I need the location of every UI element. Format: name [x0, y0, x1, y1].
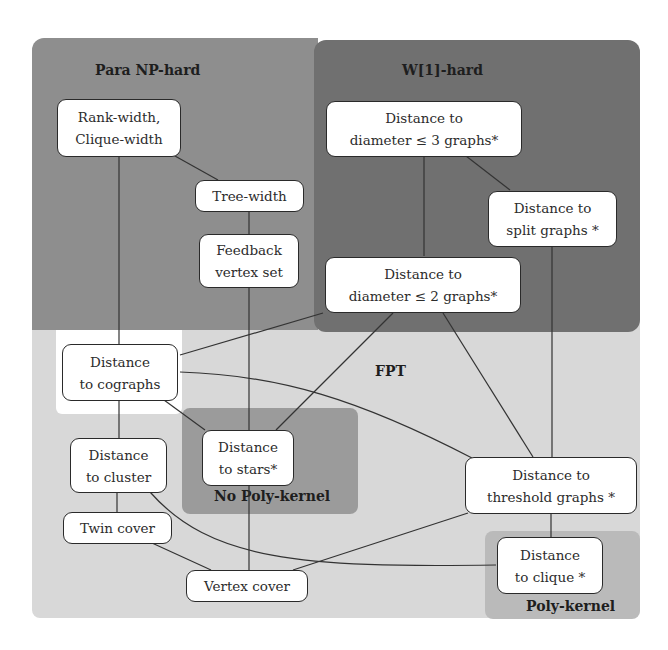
node-distance-to-diameter-3[interactable]: Distance to diameter ≤ 3 graphs* — [326, 101, 522, 157]
node-label-line1: Distance to — [514, 197, 592, 219]
node-label-line1: Rank-width, — [78, 106, 161, 128]
edge-cluster-clique — [150, 492, 496, 566]
node-label-line2: to stars* — [219, 458, 277, 480]
edge-threshold-vertexcover — [293, 513, 468, 570]
node-label-line2: vertex set — [215, 261, 283, 283]
node-label-line1: Distance to — [385, 107, 463, 129]
node-distance-to-diameter-2[interactable]: Distance to diameter ≤ 2 graphs* — [325, 257, 521, 313]
node-label-line2: Clique-width — [75, 128, 163, 150]
node-label-line1: Distance — [89, 444, 149, 466]
node-vertex-cover[interactable]: Vertex cover — [186, 570, 308, 602]
node-label-line2: diameter ≤ 3 graphs* — [350, 129, 499, 151]
node-label-line1: Twin cover — [80, 517, 155, 539]
node-feedback-vertex-set[interactable]: Feedback vertex set — [199, 234, 299, 288]
node-label-line2: to cluster — [86, 466, 151, 488]
node-label-line1: Tree-width — [212, 185, 287, 207]
edge-diam2-threshold — [443, 313, 533, 457]
node-label-line2: split graphs * — [506, 219, 598, 241]
node-distance-to-threshold[interactable]: Distance to threshold graphs * — [465, 457, 637, 514]
edge-diam2-cographs — [180, 313, 323, 355]
node-distance-to-stars[interactable]: Distance to stars* — [202, 430, 294, 486]
node-label-line1: Distance to — [384, 263, 462, 285]
node-label-line1: Vertex cover — [204, 575, 290, 597]
edge-diam2-stars — [276, 313, 393, 430]
edge-cographs-stars — [164, 400, 205, 430]
node-label-line1: Feedback — [216, 239, 282, 261]
node-tree-width[interactable]: Tree-width — [195, 180, 304, 212]
node-label-line1: Distance — [218, 436, 278, 458]
edge-diam3-split — [466, 156, 510, 190]
node-label-line1: Distance to — [512, 464, 590, 486]
node-twin-cover[interactable]: Twin cover — [63, 512, 172, 544]
node-label-line1: Distance — [90, 351, 150, 373]
node-label-line2: to cographs — [80, 373, 161, 395]
edge-rankwidth-treewidth — [175, 156, 218, 180]
node-label-line2: to clique * — [515, 566, 585, 588]
parameter-hierarchy-diagram: Para NP-hard W[1]-hard FPT No Poly-kerne… — [0, 0, 668, 650]
node-distance-to-clique[interactable]: Distance to clique * — [497, 537, 603, 594]
node-distance-to-cographs[interactable]: Distance to cographs — [62, 344, 178, 401]
node-label-line1: Distance — [520, 544, 580, 566]
node-label-line2: threshold graphs * — [487, 486, 615, 508]
node-rank-width-clique-width[interactable]: Rank-width, Clique-width — [57, 99, 181, 157]
node-distance-to-cluster[interactable]: Distance to cluster — [70, 438, 167, 493]
edge-twincover-vertexcover — [152, 543, 211, 570]
node-distance-to-split[interactable]: Distance to split graphs * — [488, 191, 617, 247]
node-label-line2: diameter ≤ 2 graphs* — [349, 285, 498, 307]
